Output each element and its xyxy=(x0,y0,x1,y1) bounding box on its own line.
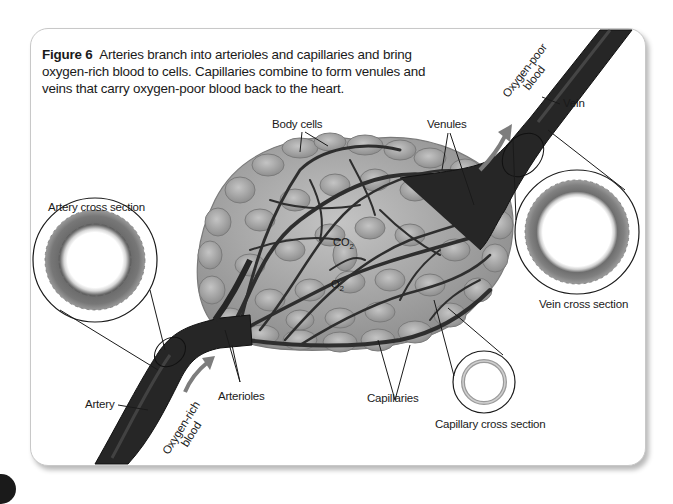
label-capillary-cross-section: Capillary cross section xyxy=(435,418,545,430)
label-artery-cross-section: Artery cross section xyxy=(48,201,145,213)
label-o2: O2 xyxy=(331,278,344,293)
label-arterioles: Arterioles xyxy=(218,390,265,402)
artery-cross-section-diagram xyxy=(33,198,165,370)
label-capillaries: Capillaries xyxy=(367,392,419,404)
label-co2: CO2 xyxy=(333,236,354,251)
label-vein: Vein xyxy=(563,97,585,109)
label-venules: Venules xyxy=(427,118,467,130)
label-body-cells: Body cells xyxy=(272,118,322,130)
label-artery: Artery xyxy=(85,398,114,410)
o2-base: O xyxy=(331,278,340,290)
o2-subscript: 2 xyxy=(340,284,344,293)
label-vein-cross-section: Vein cross section xyxy=(539,298,628,310)
co2-base: CO xyxy=(333,236,350,248)
co2-subscript: 2 xyxy=(350,242,354,251)
